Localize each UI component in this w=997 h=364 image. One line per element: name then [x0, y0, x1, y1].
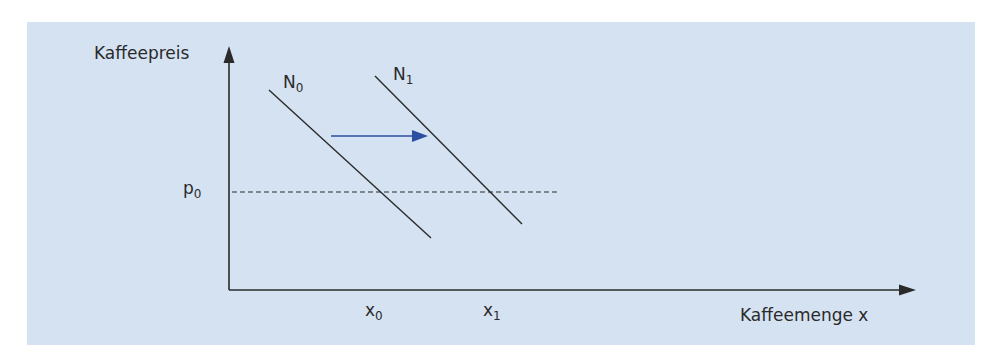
quantity-label-x1-sub: 1	[493, 309, 501, 323]
curve-label-n0-sub: 0	[296, 81, 304, 95]
shift-arrowhead-icon	[412, 130, 428, 142]
curve-label-n0: N0	[283, 74, 303, 91]
demand-curve-n1	[375, 76, 522, 224]
x-axis-label: Kaffeemenge x	[740, 307, 868, 324]
diagram-canvas: Kaffeepreis N0 N1 p0 x0 x1 Kaffeemenge x	[0, 0, 997, 364]
quantity-label-x1-main: x	[483, 300, 493, 320]
curve-label-n1-sub: 1	[406, 73, 414, 87]
curve-label-n0-main: N	[283, 72, 296, 92]
quantity-label-x1: x1	[483, 302, 501, 319]
y-axis-arrowhead-icon	[224, 46, 235, 63]
curve-label-n1-main: N	[393, 64, 406, 84]
quantity-label-x0: x0	[365, 302, 383, 319]
quantity-label-x0-main: x	[365, 300, 375, 320]
quantity-label-x0-sub: 0	[375, 309, 383, 323]
y-axis-label: Kaffeepreis	[94, 45, 189, 62]
price-label-p0-main: p	[183, 178, 194, 198]
price-label-p0-sub: 0	[194, 187, 202, 201]
price-label-p0: p0	[183, 180, 201, 197]
curve-label-n1: N1	[393, 66, 413, 83]
x-axis-arrowhead-icon	[899, 285, 916, 296]
demand-curve-n0	[269, 90, 431, 238]
